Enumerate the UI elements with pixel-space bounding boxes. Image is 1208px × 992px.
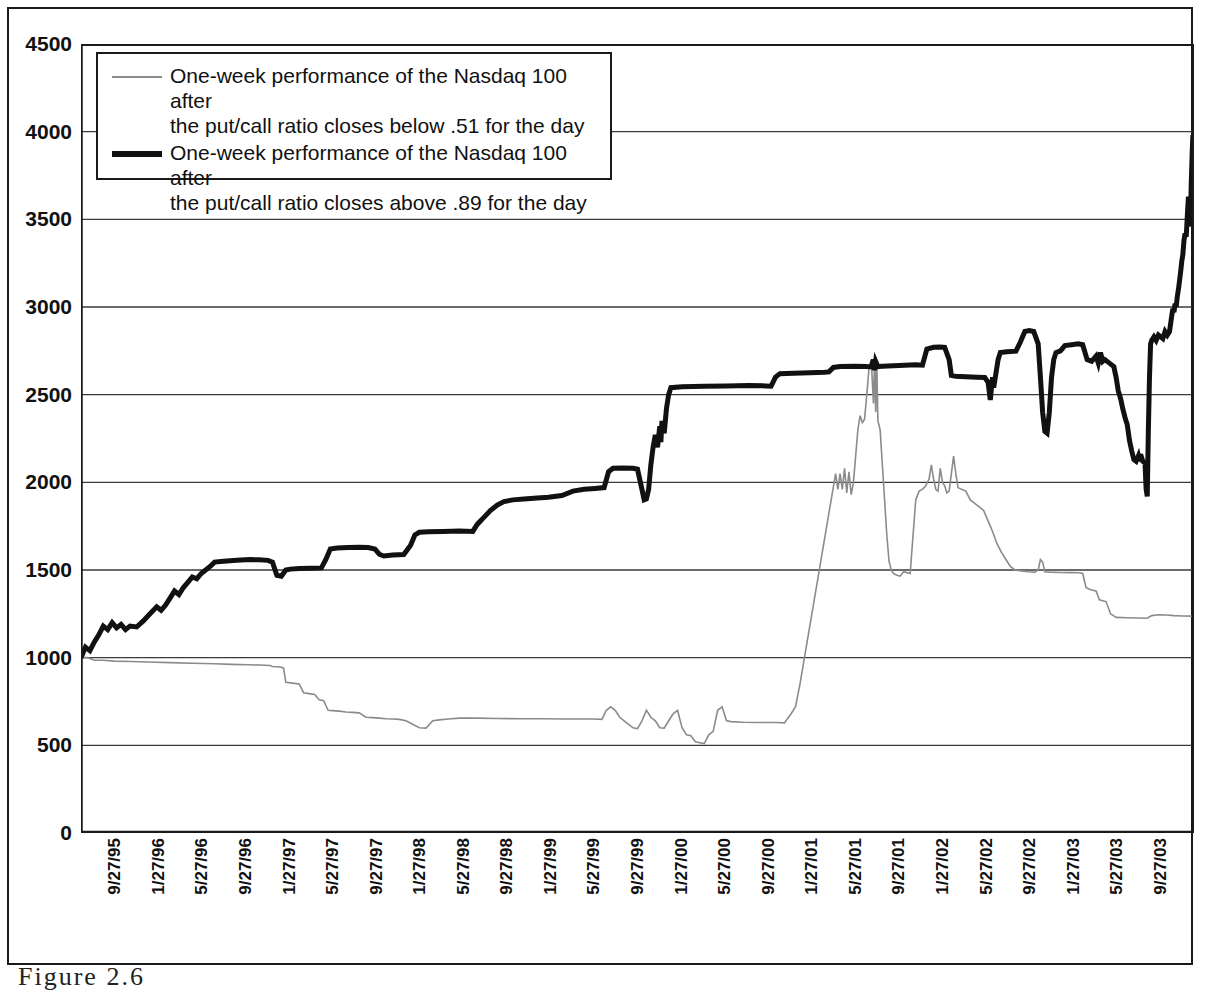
figure-caption: Figure 2.6 bbox=[18, 962, 145, 992]
y-tick-label: 2000 bbox=[25, 470, 72, 494]
x-tick-label: 5/27/03 bbox=[1107, 838, 1127, 895]
chart-legend: One-week performance of the Nasdaq 100 a… bbox=[96, 52, 612, 180]
y-tick-label: 0 bbox=[60, 821, 72, 845]
x-tick-label: 1/27/97 bbox=[280, 838, 300, 895]
x-tick-label: 1/27/99 bbox=[541, 838, 561, 895]
x-tick-label: 5/27/98 bbox=[454, 838, 474, 895]
x-tick-label: 1/27/96 bbox=[149, 838, 169, 895]
x-tick-label: 9/27/00 bbox=[759, 838, 779, 895]
y-tick-label: 4000 bbox=[25, 120, 72, 144]
legend-line-swatch-thick-icon bbox=[108, 142, 164, 166]
x-tick-label: 9/27/98 bbox=[497, 838, 517, 895]
x-tick-label: 5/27/01 bbox=[846, 838, 866, 895]
data-series-layer bbox=[81, 135, 1194, 743]
x-tick-label: 9/27/01 bbox=[889, 838, 909, 895]
y-tick-label: 1500 bbox=[25, 558, 72, 582]
x-tick-label: 1/27/01 bbox=[802, 838, 822, 895]
legend-below-line1: One-week performance of the Nasdaq 100 a… bbox=[170, 64, 567, 112]
x-tick-label: 5/27/96 bbox=[192, 838, 212, 895]
x-tick-label: 9/27/99 bbox=[628, 838, 648, 895]
x-tick-label: 5/27/99 bbox=[584, 838, 604, 895]
x-tick-label: 5/27/00 bbox=[715, 838, 735, 895]
legend-label-above: One-week performance of the Nasdaq 100 a… bbox=[170, 140, 600, 215]
x-tick-label: 9/27/03 bbox=[1151, 838, 1171, 895]
y-tick-label: 3000 bbox=[25, 295, 72, 319]
legend-entry-below: One-week performance of the Nasdaq 100 a… bbox=[108, 63, 600, 138]
legend-above-line2: the put/call ratio closes above .89 for … bbox=[170, 191, 587, 214]
x-tick-label: 1/27/98 bbox=[410, 838, 430, 895]
x-axis-labels: 9/27/951/27/965/27/969/27/961/27/975/27/… bbox=[81, 838, 1194, 948]
x-tick-label: 1/27/00 bbox=[672, 838, 692, 895]
x-tick-label: 5/27/97 bbox=[323, 838, 343, 895]
y-tick-label: 4500 bbox=[25, 32, 72, 56]
series-line-below bbox=[81, 360, 1194, 744]
x-tick-label: 9/27/96 bbox=[236, 838, 256, 895]
legend-above-line1: One-week performance of the Nasdaq 100 a… bbox=[170, 141, 567, 189]
x-tick-label: 1/27/03 bbox=[1064, 838, 1084, 895]
legend-line-swatch-thin-icon bbox=[108, 65, 164, 89]
legend-below-line2: the put/call ratio closes below .51 for … bbox=[170, 114, 584, 137]
y-tick-label: 2500 bbox=[25, 383, 72, 407]
y-tick-label: 3500 bbox=[25, 207, 72, 231]
x-tick-label: 9/27/95 bbox=[105, 838, 125, 895]
legend-entry-above: One-week performance of the Nasdaq 100 a… bbox=[108, 140, 600, 215]
y-axis-labels: 050010001500200025003000350040004500 bbox=[0, 44, 72, 833]
x-tick-label: 5/27/02 bbox=[977, 838, 997, 895]
legend-label-below: One-week performance of the Nasdaq 100 a… bbox=[170, 63, 600, 138]
x-tick-label: 9/27/02 bbox=[1020, 838, 1040, 895]
y-tick-label: 1000 bbox=[25, 646, 72, 670]
x-tick-label: 1/27/02 bbox=[933, 838, 953, 895]
y-tick-label: 500 bbox=[37, 733, 72, 757]
x-tick-label: 9/27/97 bbox=[367, 838, 387, 895]
